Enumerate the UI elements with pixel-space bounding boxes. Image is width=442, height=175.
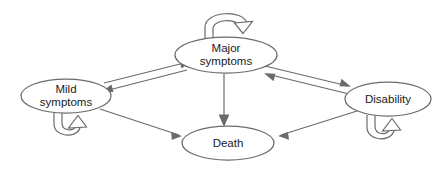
node-major-symptoms[interactable]: Major symptoms [175, 37, 277, 73]
node-mild-symptoms[interactable]: Mild symptoms [21, 79, 111, 113]
edge-disability-to-death [278, 111, 357, 140]
node-disability-shape[interactable] [345, 82, 431, 116]
node-death-shape[interactable] [182, 126, 274, 160]
major-self-loop [205, 14, 253, 38]
node-disability[interactable]: Disability [345, 82, 431, 116]
disability-self-loop [367, 115, 401, 139]
diagram-svg: Mild symptoms Major symptoms Disability … [0, 0, 442, 175]
edge-major-to-death [219, 74, 230, 127]
node-major-symptoms-shape[interactable] [175, 37, 277, 73]
edge-mild-to-death [100, 109, 182, 140]
state-transition-diagram: Mild symptoms Major symptoms Disability … [0, 0, 442, 175]
mild-self-loop [54, 112, 87, 135]
node-mild-symptoms-shape[interactable] [21, 79, 111, 113]
node-death[interactable]: Death [182, 126, 274, 160]
